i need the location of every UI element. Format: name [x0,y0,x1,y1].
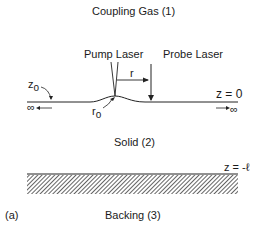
pump-beam-left [111,62,115,96]
z-eq-l-label: z = -ℓ [224,161,249,173]
z0-label: zo [28,78,39,93]
inf-right-label: ∞ [230,103,238,115]
r0-label: ro [92,105,101,120]
diagram-canvas [0,0,266,232]
backing-label: Backing (3) [105,209,161,221]
backing-hatch [27,175,238,194]
surface-line [27,96,238,102]
probe-laser-label: Probe Laser [163,48,223,60]
probe-arrowhead [148,95,154,101]
z0-leader [41,87,51,99]
z-eq-0-label: z = 0 [216,87,242,101]
coupling-gas-label: Coupling Gas (1) [92,5,175,17]
r-label: r [130,67,134,79]
pump-laser-label: Pump Laser [84,48,143,60]
pump-beam-right [115,62,118,96]
r-arrowhead [143,78,149,83]
solid-label: Solid (2) [114,136,155,148]
inf-left-label: ∞ [27,101,35,113]
panel-label: (a) [5,209,18,221]
